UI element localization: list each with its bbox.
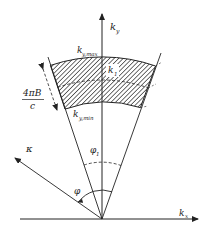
svg-text:y: y <box>115 27 120 35</box>
svg-text:k: k <box>108 65 113 75</box>
kx-axis-label: k x <box>179 208 189 219</box>
svg-text:c: c <box>30 101 35 111</box>
k1-label: k 1 <box>106 64 119 77</box>
svg-text:x: x <box>185 213 189 219</box>
phi1-label: φ 1 <box>90 145 100 157</box>
phi-label: φ <box>74 186 81 196</box>
ky-min-label: k y,min <box>73 109 94 122</box>
svg-text:1: 1 <box>96 151 100 157</box>
kappa-vector <box>15 158 102 219</box>
ky-max-label: k y,max <box>77 45 99 58</box>
svg-text:1: 1 <box>114 71 118 77</box>
svg-text:k: k <box>179 208 184 218</box>
svg-text:4πB: 4πB <box>22 88 42 98</box>
svg-text:φ: φ <box>74 186 81 196</box>
kappa-label: κ <box>25 143 33 154</box>
svg-text:k: k <box>73 109 78 119</box>
ky-axis-label: k y <box>110 21 120 35</box>
band-width-label: 4πB c <box>22 88 44 111</box>
svg-text:κ: κ <box>25 143 33 154</box>
svg-text:y,min: y,min <box>78 115 94 122</box>
svg-text:y,max: y,max <box>81 51 99 58</box>
k-space-diagram: k y k x k y,max k y,min k 1 4πB c κ φ φ … <box>0 0 210 234</box>
hatched-band <box>50 57 155 109</box>
